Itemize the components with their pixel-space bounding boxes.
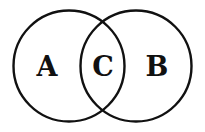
- label-b: B: [146, 51, 169, 82]
- label-intersection-c: C: [92, 51, 114, 82]
- label-a: A: [36, 51, 59, 82]
- venn-diagram: A C B: [0, 0, 205, 132]
